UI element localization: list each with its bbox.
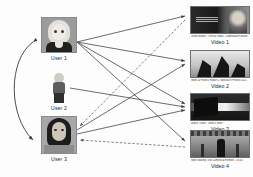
edge-videos-to-user3-recommendation — [80, 20, 185, 147]
interview-scene-thumbnail-icon — [190, 6, 250, 34]
user-node-3[interactable]: User 3 — [41, 116, 77, 162]
video-node-1[interactable]: Justin Bieber - Official Video - Downloa… — [189, 6, 251, 45]
video-node-3[interactable]: Movie Trailer - What's New? Video 3 — [189, 93, 251, 132]
video-node-2[interactable]: News & Politics Report 2 Special in Prot… — [189, 50, 251, 89]
edge-user1-user3-similarity — [14, 42, 33, 140]
standing-figure-avatar-icon — [51, 73, 67, 103]
video-label: Video 1 — [189, 39, 251, 45]
video-caption: New Walking Tour Camera & Remote - 16:44 — [191, 159, 249, 162]
user-label: User 3 — [41, 156, 77, 162]
street-scene-thumbnail-icon — [190, 130, 250, 158]
female-cartoon-avatar-icon — [41, 17, 77, 53]
user-node-1[interactable]: User 1 — [41, 17, 77, 61]
user-label: User 2 — [50, 105, 68, 111]
user-video-interaction-diagram: User 1 User 2 User 3 Justin Bieber - Off… — [0, 0, 253, 177]
user-label: User 1 — [41, 55, 77, 61]
female-photo-avatar-icon — [41, 116, 77, 154]
crowd-flags-thumbnail-icon — [190, 50, 250, 78]
user-node-2[interactable]: User 2 — [50, 73, 68, 111]
edge-user2-to-videos — [70, 88, 185, 107]
dark-screen-thumbnail-icon — [190, 93, 250, 121]
video-caption: Justin Bieber - Official Video - Downloa… — [191, 35, 249, 38]
video-node-4[interactable]: New Walking Tour Camera & Remote - 16:44… — [189, 130, 251, 169]
video-label: Video 4 — [189, 163, 251, 169]
video-caption: Movie Trailer - What's New? — [191, 122, 249, 125]
video-label: Video 2 — [189, 83, 251, 89]
video-caption: News & Politics Report 2 Special in Prot… — [191, 79, 249, 82]
